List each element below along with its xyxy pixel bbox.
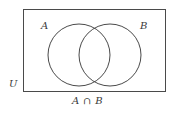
set-b-label: B [140, 21, 147, 31]
set-a-label: A [41, 21, 48, 31]
venn-diagram-figure: A B U A ∩ B [0, 0, 175, 113]
figure-caption: A ∩ B [0, 96, 175, 106]
universal-set-label: U [9, 79, 17, 89]
